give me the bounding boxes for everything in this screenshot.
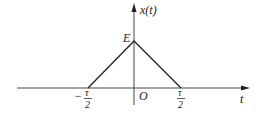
peak-label: E <box>122 31 131 45</box>
right-tick-denominator: 2 <box>178 99 183 110</box>
left-tick-sign: − <box>74 89 82 103</box>
y-axis-arrow-icon <box>132 3 137 12</box>
y-axis-label: x(t) <box>139 3 157 17</box>
left-tick-label: − τ 2 <box>74 87 92 110</box>
x-axis-arrow-icon <box>241 86 250 91</box>
right-tick-label: τ 2 <box>177 87 185 110</box>
right-tick-numerator: τ <box>178 87 182 98</box>
x-axis-label: t <box>240 92 244 106</box>
left-tick-numerator: τ <box>85 87 89 98</box>
origin-label: O <box>139 89 148 103</box>
left-tick-denominator: 2 <box>85 99 90 110</box>
triangle-pulse-diagram: x(t) t O E − τ 2 τ 2 <box>0 0 261 120</box>
